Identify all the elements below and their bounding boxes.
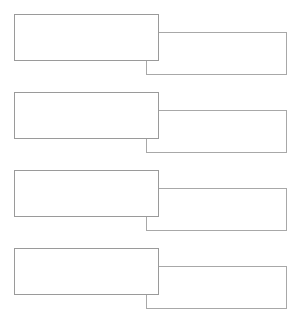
primary-rectangle[interactable] [14, 92, 159, 139]
secondary-rectangle[interactable] [146, 32, 287, 75]
secondary-rectangle[interactable] [146, 110, 287, 153]
rectangle-pair-row [0, 14, 298, 92]
rectangle-pair-row [0, 92, 298, 170]
rectangle-pair-row [0, 170, 298, 248]
primary-rectangle[interactable] [14, 248, 159, 295]
secondary-rectangle[interactable] [146, 188, 287, 231]
secondary-rectangle[interactable] [146, 266, 287, 309]
rectangle-pair-row [0, 248, 298, 326]
primary-rectangle[interactable] [14, 170, 159, 217]
diagram-canvas [0, 0, 298, 326]
primary-rectangle[interactable] [14, 14, 159, 61]
